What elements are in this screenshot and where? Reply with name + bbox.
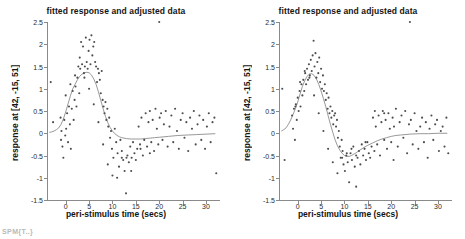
bottom-text-fragment: SPM{T..}: [2, 228, 80, 237]
plot-title-right: fitted response and adjusted data: [232, 6, 464, 16]
y-tick-label: 2: [39, 41, 43, 48]
plot-panel-left: fitted response and adjusted data respon…: [0, 0, 232, 239]
plot-axes-left: -1.5-1-0.500.511.522.5 051015202530: [47, 22, 220, 200]
x-axis-line-left: [47, 200, 220, 201]
y-tick-label: 1.5: [33, 63, 43, 70]
y-tick-label: 2.5: [33, 19, 43, 26]
y-tick-label: -1.5: [31, 197, 43, 204]
fitted-response-curve: [281, 74, 447, 157]
y-tick-mark: [276, 200, 280, 201]
plot-panel-right: fitted response and adjusted data respon…: [232, 0, 464, 239]
y-tick-label: 0: [39, 130, 43, 137]
y-tick-label: 0.5: [265, 108, 275, 115]
y-tick-mark: [44, 200, 48, 201]
plot-data-layer-right: [279, 22, 452, 200]
y-tick-label: -0.5: [31, 152, 43, 159]
y-axis-label-left: response at [42, -15, 51]: [8, 38, 22, 188]
x-axis-line-right: [279, 200, 452, 201]
plot-data-layer-left: [47, 22, 220, 200]
y-tick-label: 0: [271, 130, 275, 137]
plot-title-left: fitted response and adjusted data: [0, 6, 232, 16]
y-tick-label: 1: [271, 85, 275, 92]
scatter-points: [281, 21, 449, 188]
y-tick-label: 0.5: [33, 108, 43, 115]
y-tick-label: 2: [271, 41, 275, 48]
y-tick-label: 1.5: [265, 63, 275, 70]
y-axis-label-right: response at [42, -15, 51]: [240, 38, 254, 188]
y-tick-label: -1.5: [263, 197, 275, 204]
plot-axes-right: -1.5-1-0.500.511.522.5 051015202530: [279, 22, 452, 200]
y-tick-label: -0.5: [263, 152, 275, 159]
x-axis-label-right: peri-stimulus time (secs): [232, 209, 464, 219]
y-tick-label: 1: [39, 85, 43, 92]
fitted-response-curve: [49, 72, 215, 139]
scatter-points: [50, 21, 218, 194]
x-axis-label-left: peri-stimulus time (secs): [0, 209, 232, 219]
y-tick-label: -1: [37, 174, 43, 181]
y-tick-label: 2.5: [265, 19, 275, 26]
y-tick-label: -1: [269, 174, 275, 181]
